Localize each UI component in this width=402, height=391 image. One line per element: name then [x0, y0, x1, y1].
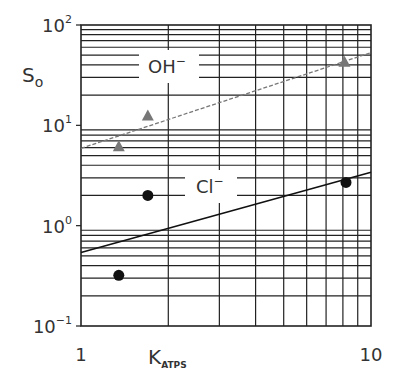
triangle-marker	[113, 140, 125, 151]
x-axis-label: KATPS	[148, 345, 187, 370]
triangle-marker	[142, 110, 154, 121]
y-tick-label: 101	[42, 113, 72, 136]
y-tick-label: 100	[42, 214, 72, 237]
x-tick-label: 10	[360, 344, 383, 365]
fit-lines	[81, 53, 371, 253]
triangle-marker	[338, 56, 350, 67]
circle-marker	[341, 177, 352, 188]
y-tick-label: 102	[42, 13, 72, 36]
y-tick-label: 10−1	[33, 314, 72, 337]
data-markers	[113, 56, 352, 281]
oh-fit-line	[81, 53, 371, 149]
circle-marker	[113, 270, 124, 281]
circle-marker	[142, 190, 153, 201]
y-axis-ticks: 10−1100101102	[33, 13, 81, 337]
log-log-chart: 10−1100101102 110 So KATPS OH− Cl−	[0, 0, 402, 391]
x-axis-ticks: 110	[75, 344, 382, 365]
y-axis-label: So	[22, 63, 43, 90]
x-tick-label: 1	[75, 344, 86, 365]
